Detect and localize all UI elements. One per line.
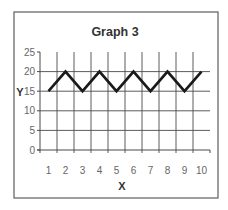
y-tick-label: 0 xyxy=(29,145,35,156)
x-axis-title: X xyxy=(118,180,126,192)
x-tick-label: 6 xyxy=(131,165,137,176)
x-tick-label: 1 xyxy=(46,165,52,176)
x-tick-label: 7 xyxy=(148,165,154,176)
y-tick-label: 20 xyxy=(24,66,36,77)
x-tick-label: 9 xyxy=(182,165,188,176)
x-tick-label: 10 xyxy=(196,165,208,176)
y-axis-title: Y xyxy=(16,86,24,98)
x-tick-label: 5 xyxy=(114,165,120,176)
y-tick-label: 10 xyxy=(24,105,36,116)
x-tick-label: 4 xyxy=(97,165,103,176)
chart-title: Graph 3 xyxy=(91,25,138,39)
x-tick-label: 3 xyxy=(80,165,86,176)
line-chart: Graph 3 0510152025 12345678910 Y X xyxy=(0,0,228,210)
x-tick-label: 8 xyxy=(165,165,171,176)
y-tick-label: 25 xyxy=(24,47,36,58)
y-tick-label: 15 xyxy=(24,86,36,97)
y-tick-label: 5 xyxy=(29,125,35,136)
x-tick-label: 2 xyxy=(63,165,69,176)
